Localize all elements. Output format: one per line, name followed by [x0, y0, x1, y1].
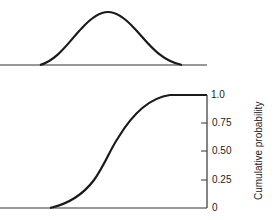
cumulative-curve — [50, 95, 207, 208]
density-curve — [40, 12, 182, 65]
diagram-canvas — [0, 0, 276, 220]
y-axis-label: Cumulative probability — [253, 102, 264, 200]
tick-label-0.25: 0.25 — [212, 175, 231, 185]
tick-label-0.50: 0.50 — [212, 146, 231, 156]
tick-label-0: 0 — [212, 203, 218, 213]
tick-label-0.75: 0.75 — [212, 118, 231, 128]
tick-label-1.0: 1.0 — [211, 90, 225, 100]
